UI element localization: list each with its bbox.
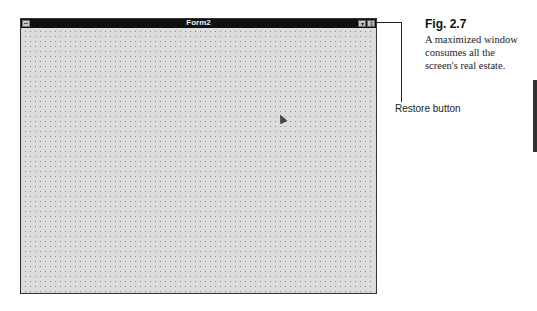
callout-label: Restore button [395,103,461,114]
window-title: Form2 [21,18,376,28]
form-window: Form2 ▾ ⇕ [20,18,377,294]
mouse-pointer-icon [276,113,287,125]
callout-line [377,22,401,23]
minimize-button[interactable]: ▾ [358,20,366,27]
restore-button[interactable]: ⇕ [367,20,375,27]
callout-line-vertical [401,22,402,102]
page-edge-bar [533,80,537,152]
form-grid-area[interactable] [22,28,375,292]
title-bar[interactable]: Form2 ▾ ⇕ [21,19,376,28]
figure-number: Fig. 2.7 [425,17,466,31]
figure-caption: A maximized window consumes all the scre… [425,33,525,72]
